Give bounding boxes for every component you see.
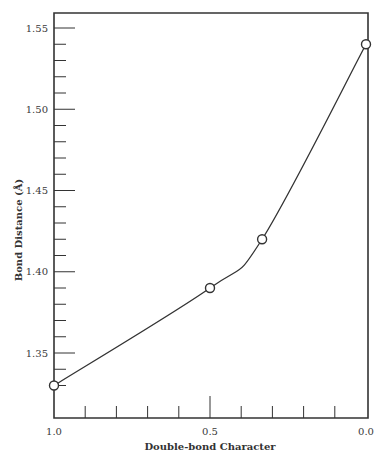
data-point-marker: [362, 40, 371, 49]
y-tick-label: 1.45: [26, 185, 48, 196]
x-tick-label: 0.5: [202, 426, 218, 437]
y-tick-label: 1.35: [26, 348, 48, 359]
y-tick-label: 1.40: [26, 266, 48, 277]
y-axis-title: Bond Distance (Å): [13, 179, 24, 282]
y-tick-label: 1.50: [26, 104, 48, 115]
data-point-marker: [50, 381, 59, 390]
y-tick-label: 1.55: [26, 23, 48, 34]
data-point-marker: [258, 235, 267, 244]
x-axis-title: Double-bond Character: [144, 441, 276, 452]
bond-distance-curve: [54, 44, 366, 385]
x-tick-label: 0.0: [358, 426, 374, 437]
bond-distance-chart: 1.351.401.451.501.55 1.00.50.0 Double-bo…: [0, 0, 378, 455]
x-tick-label: 1.0: [46, 426, 62, 437]
data-points: [50, 40, 371, 390]
fitted-curve: [54, 44, 366, 385]
x-axis-ticks: 1.00.50.0: [46, 396, 374, 437]
data-point-marker: [206, 284, 215, 293]
y-axis-ticks: 1.351.401.451.501.55: [26, 23, 75, 386]
